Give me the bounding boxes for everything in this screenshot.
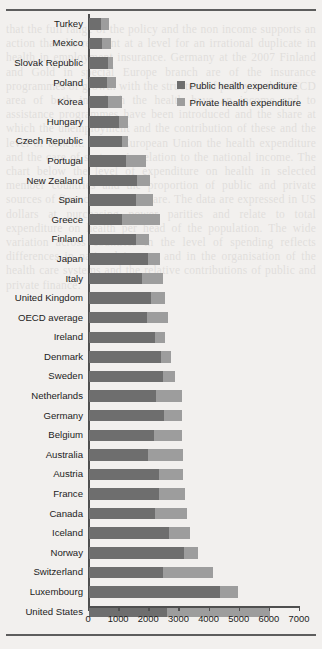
bar-segment-public: [89, 410, 164, 422]
stacked-bar: [89, 136, 128, 148]
bar-segment-public: [89, 253, 148, 265]
bar-segment-public: [89, 351, 161, 363]
bar-row: Austria: [0, 465, 322, 485]
bar-row: Portugal: [0, 151, 322, 171]
stacked-bar: [89, 469, 183, 481]
bar-row: Australia: [0, 445, 322, 465]
stacked-bar: [89, 253, 160, 265]
bar-segment-private: [126, 155, 146, 167]
x-axis-tick: [88, 606, 89, 611]
bar-segment-public: [89, 488, 159, 500]
x-axis-tick-label: 3000: [168, 613, 189, 624]
bar-segment-private: [159, 469, 183, 481]
bar-segment-public: [89, 567, 163, 579]
category-label: Portugal: [0, 156, 83, 166]
bar-segment-public: [89, 96, 108, 108]
stacked-bar: [89, 351, 171, 363]
stacked-bar: [89, 371, 175, 383]
legend-item-public: Public health expenditure: [177, 78, 301, 92]
category-label: Australia: [0, 450, 83, 460]
category-label: Norway: [0, 548, 83, 558]
category-label: Spain: [0, 195, 83, 205]
chart-legend: Public health expenditure Private health…: [177, 78, 301, 112]
stacked-bar: [89, 312, 168, 324]
bar-segment-public: [89, 214, 122, 226]
category-label: United Kingdom: [0, 293, 83, 303]
bar-segment-public: [89, 371, 163, 383]
category-label: Finland: [0, 234, 83, 244]
category-label: Czech Republic: [0, 136, 83, 146]
bar-segment-public: [89, 273, 142, 285]
bar-row: Denmark: [0, 347, 322, 367]
legend-label-private: Private health expenditure: [190, 97, 301, 108]
bar-segment-public: [89, 18, 101, 30]
bar-segment-private: [137, 175, 150, 187]
bar-segment-public: [89, 57, 108, 69]
category-label: Denmark: [0, 352, 83, 362]
x-axis-tick-label: 5000: [228, 613, 249, 624]
bar-segment-private: [148, 449, 183, 461]
category-label: Mexico: [0, 38, 83, 48]
bar-segment-private: [142, 273, 163, 285]
category-label: Switzerland: [0, 567, 83, 577]
stacked-bar: [89, 292, 165, 304]
bar-segment-private: [220, 586, 238, 598]
legend-swatch-private-icon: [177, 98, 185, 106]
stacked-bar: [89, 57, 113, 69]
figure-bottom-rule: [6, 634, 316, 636]
bar-segment-private: [164, 410, 183, 422]
legend-swatch-public-icon: [177, 81, 185, 89]
legend-item-private: Private health expenditure: [177, 95, 301, 109]
category-label: Canada: [0, 509, 83, 519]
category-label: United States: [0, 607, 83, 617]
bar-row: France: [0, 484, 322, 504]
stacked-bar: [89, 214, 160, 226]
bar-row: Slovak Republic: [0, 53, 322, 73]
bar-row: Turkey: [0, 14, 322, 34]
x-axis-tick: [299, 606, 300, 611]
stacked-bar: [89, 430, 182, 442]
x-axis-tick-label: 6000: [258, 613, 279, 624]
bar-row: OECD average: [0, 308, 322, 328]
x-axis-tick: [148, 606, 149, 611]
category-label: Korea: [0, 97, 83, 107]
legend-label-public: Public health expenditure: [190, 80, 298, 91]
bar-segment-public: [89, 469, 159, 481]
stacked-bar: [89, 508, 187, 520]
bar-segment-private: [102, 38, 112, 50]
category-label: Sweden: [0, 371, 83, 381]
bar-segment-private: [108, 57, 113, 69]
bar-row: Netherlands: [0, 386, 322, 406]
category-label: Belgium: [0, 430, 83, 440]
bar-row: Czech Republic: [0, 132, 322, 152]
bar-segment-public: [89, 155, 126, 167]
bar-segment-private: [169, 527, 189, 539]
bar-row: Switzerland: [0, 563, 322, 583]
bar-segment-public: [89, 312, 147, 324]
bar-row: New Zealand: [0, 171, 322, 191]
bar-segment-public: [89, 175, 137, 187]
category-label: Luxembourg: [0, 587, 83, 597]
bar-segment-private: [122, 214, 161, 226]
stacked-bar: [89, 586, 238, 598]
x-axis-tick: [269, 606, 270, 611]
bar-segment-public: [89, 38, 102, 50]
figure-health-expenditure: TurkeyMexicoSlovak RepublicPolandKoreaHu…: [0, 0, 322, 649]
x-axis-tick-label: 1000: [108, 613, 129, 624]
stacked-bar: [89, 155, 146, 167]
bar-segment-private: [161, 351, 171, 363]
figure-top-rule: [6, 9, 316, 11]
stacked-bar: [89, 547, 198, 559]
bar-segment-public: [89, 136, 122, 148]
bar-segment-public: [89, 547, 184, 559]
stacked-bar: [89, 77, 116, 89]
bar-segment-private: [122, 136, 128, 148]
bar-row: Greece: [0, 210, 322, 230]
category-label: France: [0, 489, 83, 499]
bar-row: Finland: [0, 230, 322, 250]
bar-row: Canada: [0, 504, 322, 524]
bar-row: Japan: [0, 249, 322, 269]
stacked-bar: [89, 116, 128, 128]
stacked-bar: [89, 410, 182, 422]
category-label: Hungary: [0, 117, 83, 127]
